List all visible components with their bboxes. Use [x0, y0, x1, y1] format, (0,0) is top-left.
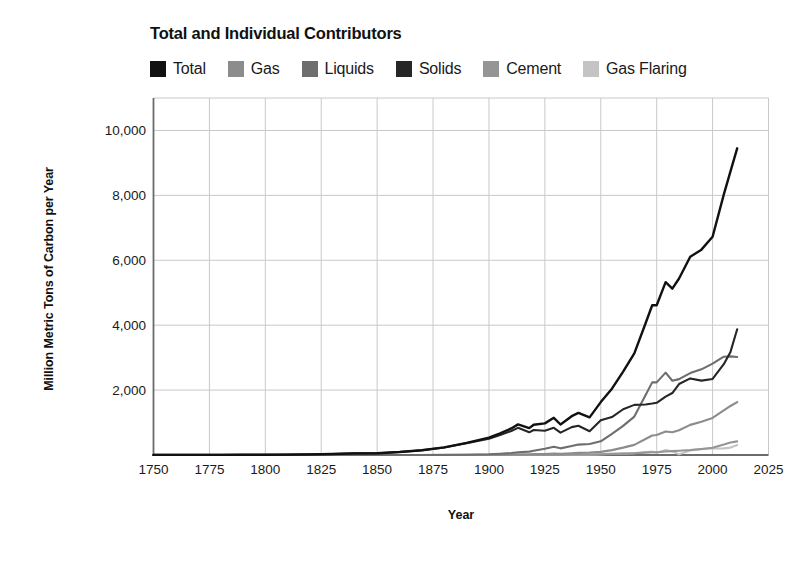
plot-area	[0, 0, 811, 564]
plot-background	[154, 98, 769, 455]
chart-figure: Total and Individual Contributors TotalG…	[0, 0, 811, 564]
